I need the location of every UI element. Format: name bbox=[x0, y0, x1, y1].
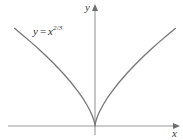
x-axis-label: x bbox=[172, 128, 177, 139]
equation-relation: = bbox=[38, 25, 48, 37]
axes-group bbox=[8, 4, 180, 135]
y-axis-label: y bbox=[85, 2, 90, 13]
equation-exponent: 2/3 bbox=[53, 24, 62, 32]
equation-exponent-denominator: 3 bbox=[59, 24, 63, 32]
graph-canvas bbox=[0, 0, 183, 140]
equation-exponent-numerator: 2 bbox=[53, 24, 57, 32]
figure-container: y=x2/3 y x bbox=[0, 0, 183, 140]
curve-equation-label: y=x2/3 bbox=[33, 26, 62, 37]
y-axis-arrow-icon bbox=[92, 4, 98, 11]
